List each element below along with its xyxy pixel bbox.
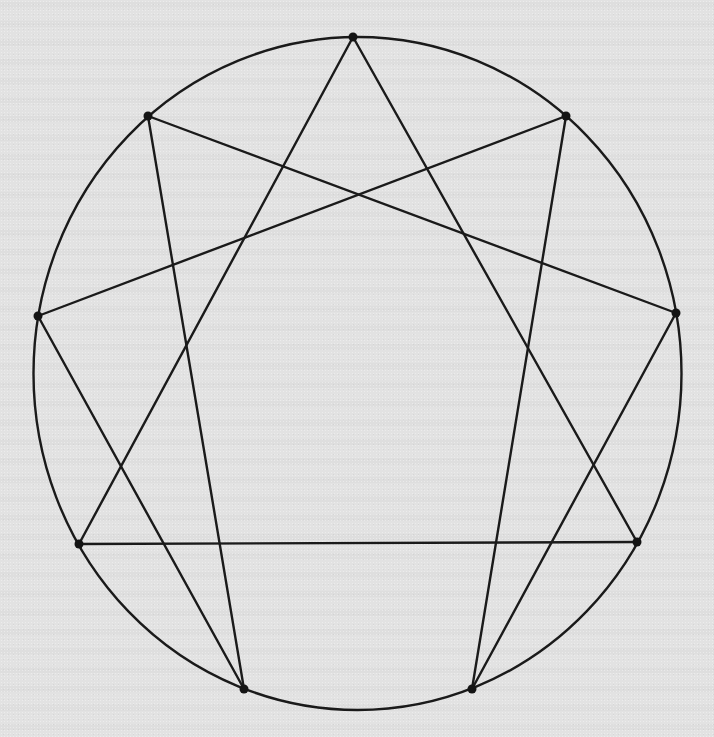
vertex-dot-bottom-left [240, 685, 249, 694]
vertex-dot-upper-right [562, 112, 571, 121]
connecting-lines [38, 37, 676, 689]
outer-circle [34, 37, 682, 710]
triangle-line-p0-p3 [353, 37, 637, 542]
vertex-dot-top [349, 33, 358, 42]
vertex-dot-right [672, 309, 681, 318]
enneagram-diagram [0, 0, 714, 737]
triangle-line-p6-p0 [79, 37, 353, 544]
vertex-dot-lower-right [633, 538, 642, 547]
vertex-dot-bottom-right [468, 685, 477, 694]
vertex-dot-left [34, 312, 43, 321]
page [0, 0, 714, 737]
vertex-dot-lower-left [75, 540, 84, 549]
vertex-dot-upper-left [144, 112, 153, 121]
